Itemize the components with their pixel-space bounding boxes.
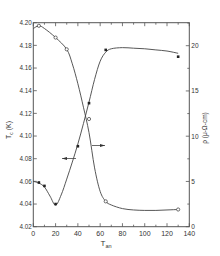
x-tick-label: 60 (96, 230, 104, 237)
left-y-tick-label: 4.10 (20, 132, 33, 139)
tc-data-point (77, 145, 80, 148)
right-y-tick-label: 0 (191, 223, 195, 230)
left-y-tick-label: 4.12 (20, 110, 33, 117)
x-tick-label: 20 (52, 230, 60, 237)
x-tick-label: 0 (31, 230, 35, 237)
left-arrow-head-icon (62, 157, 67, 160)
x-tick-label: 80 (119, 230, 127, 237)
x-tick-label: 100 (139, 230, 151, 237)
tc-data-point (88, 102, 91, 105)
left-axis-label: Tc (K) (5, 121, 14, 139)
tc-data-point (177, 55, 180, 58)
plot-border (33, 23, 189, 227)
left-y-axis-ticks: 4.024.044.064.084.104.124.144.164.184.20 (20, 19, 37, 230)
right-y-tick-label: 10 (191, 133, 199, 140)
right-arrow-head-icon (100, 144, 105, 147)
tc-curve (33, 48, 178, 206)
x-tick-label: 120 (161, 230, 173, 237)
x-tick-label: 140 (183, 230, 195, 237)
left-y-tick-label: 4.16 (20, 64, 33, 71)
right-y-axis-ticks: 05101520 (186, 23, 199, 230)
left-y-tick-label: 4.02 (20, 223, 33, 230)
rho-curve (33, 26, 178, 211)
right-y-tick-label: 20 (191, 42, 199, 49)
annotation-arrows (62, 144, 105, 160)
left-y-tick-label: 4.14 (20, 87, 33, 94)
rho-data-point (37, 24, 40, 27)
rho-data-point (177, 208, 180, 211)
rho-data-point (54, 36, 57, 39)
plot-frame (33, 23, 189, 227)
rho-data-point (87, 117, 90, 120)
right-axis-label: ρ (μ-Ω-cm) (201, 112, 209, 143)
left-y-tick-label: 4.04 (20, 200, 33, 207)
rho-data-point (104, 200, 107, 203)
data-curves (33, 26, 178, 211)
rho-data-point (65, 48, 68, 51)
right-y-tick-label: 15 (191, 87, 199, 94)
left-y-tick-label: 4.08 (20, 155, 33, 162)
left-y-tick-label: 4.20 (20, 19, 33, 26)
left-y-tick-label: 4.18 (20, 42, 33, 49)
tc-data-point (104, 49, 107, 52)
tc-data-point (38, 181, 41, 184)
x-tick-label: 40 (74, 230, 82, 237)
left-y-tick-label: 4.06 (20, 178, 33, 185)
x-axis-label: Tan (100, 239, 111, 249)
tc-data-point (54, 203, 57, 206)
tc-data-point (43, 185, 46, 188)
right-y-tick-label: 5 (191, 178, 195, 185)
data-markers (37, 24, 179, 211)
chart: 020406080100120140 4.024.044.064.084.104… (0, 0, 220, 256)
